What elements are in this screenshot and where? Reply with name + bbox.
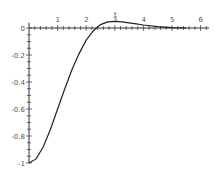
y-tick-label: 0 (21, 25, 25, 33)
axes: 1234560-0.2-0.4-0.6-0.8-1 (11, 16, 209, 168)
y-tick-label: -0.2 (11, 52, 25, 60)
y-tick-label: -0.8 (11, 133, 25, 141)
x-tick-label: 4 (141, 16, 146, 24)
x-axis-label: t (114, 11, 117, 19)
line-chart: 1234560-0.2-0.4-0.6-0.8-1 t (0, 0, 223, 172)
data-line (29, 21, 186, 163)
x-tick-label: 1 (56, 16, 60, 24)
x-tick-label: 2 (84, 16, 88, 24)
y-tick-label: -0.6 (11, 106, 25, 114)
y-tick-label: -1 (18, 160, 25, 168)
y-tick-label: -0.4 (11, 79, 25, 87)
x-tick-label: 5 (170, 16, 174, 24)
x-tick-label: 6 (199, 16, 204, 24)
